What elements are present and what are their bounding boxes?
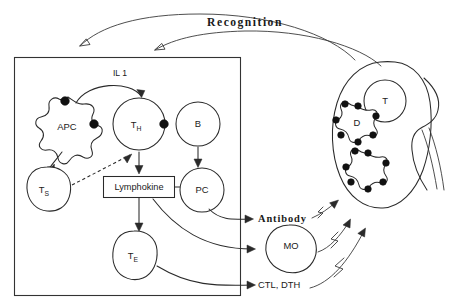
lymphokine-label: Lymphokine (114, 182, 163, 192)
ts-to-th-arrowhead (124, 154, 132, 163)
mo-label: MO (283, 240, 298, 251)
dendritic-d-dot-2 (373, 113, 380, 120)
antibody-effect-arrow (312, 200, 339, 218)
dendritic-2-dot-7 (352, 148, 359, 155)
ctl-dth-effect-path (310, 231, 364, 288)
pc-label: PC (195, 184, 208, 195)
ctl-dth-effect-zigzag (334, 258, 344, 277)
b-label: B (195, 118, 201, 129)
te-to-ctl-dth-arrowhead (247, 281, 256, 289)
te-to-ctl-dth-path (157, 266, 252, 285)
dendritic-2-dot-4 (365, 186, 372, 193)
dendritic-2-dot-3 (380, 179, 387, 186)
cell-ts[interactable]: TS (27, 167, 71, 211)
ctl-dth-effect-arrowhead (358, 228, 366, 237)
lymphokine-box[interactable]: Lymphokine (104, 177, 175, 198)
antibody-effect-arrowhead (330, 200, 339, 208)
dendritic-d-dot-3 (370, 132, 377, 139)
cell-te[interactable]: TE (113, 231, 157, 280)
pc-to-antibody-path (209, 209, 250, 219)
cell-b[interactable]: B (176, 102, 220, 146)
mo-effect-arrowhead (343, 219, 351, 228)
dendritic-2-dot-1 (365, 150, 372, 157)
apc-antigen-dot-1 (61, 97, 70, 106)
lymphokine-to-mo-arrowhead (247, 245, 256, 253)
recognition-arc-inner (155, 31, 381, 66)
dendritic-d-dot-1 (355, 103, 362, 110)
cell-apc[interactable]: APC (36, 97, 102, 164)
dendritic-d-dot-4 (355, 139, 362, 146)
mo-effect-zigzag (331, 232, 338, 248)
figure-canvas: Recognition APC IL 1 TH B (0, 0, 456, 306)
pc-to-antibody-arrowhead (245, 215, 254, 223)
recognition-title: Recognition (207, 16, 283, 29)
antibody-label: Antibody (258, 213, 307, 224)
mo-effect-arrow (318, 219, 351, 252)
pc-to-antibody-arrow (209, 209, 254, 223)
cell-mo[interactable]: MO (266, 225, 316, 273)
dendritic-d-dot-6 (333, 117, 340, 124)
th-to-lymphokine-arrowhead (135, 166, 143, 175)
lymphokine-to-te-arrowhead (135, 223, 143, 232)
il1-arrowhead (137, 90, 145, 98)
apc-antigen-dot-2 (90, 120, 99, 129)
immune-response-diagram: Recognition APC IL 1 TH B (0, 0, 456, 306)
apc-label: APC (57, 121, 77, 132)
dendritic-2-dot-5 (348, 179, 355, 186)
dendritic-d-dot-7 (342, 101, 349, 108)
dendritic-d-dot-5 (338, 132, 345, 139)
target-t-label: T (382, 95, 388, 106)
th-to-lymphokine-arrow (135, 152, 143, 174)
antibody-effect-zigzag (318, 207, 323, 218)
cell-pc[interactable]: PC (180, 168, 224, 212)
th-receptor-dot (160, 120, 169, 129)
target-organ-hilum (412, 78, 439, 190)
b-to-pc-arrowhead (194, 159, 202, 168)
lymphokine-to-te-arrow (135, 198, 143, 232)
recognition-arc-outer-arrowhead (80, 39, 90, 46)
ctl-dth-label: CTL, DTH (258, 279, 300, 290)
cell-dendritic-2[interactable] (343, 148, 390, 193)
b-to-pc-arrow (194, 147, 202, 168)
dendritic-2-dot-6 (343, 164, 350, 171)
dendritic-2-dot-2 (383, 160, 390, 167)
cell-th[interactable]: TH (113, 98, 168, 150)
il1-label: IL 1 (113, 68, 127, 78)
dendritic-d-label: D (354, 117, 361, 128)
